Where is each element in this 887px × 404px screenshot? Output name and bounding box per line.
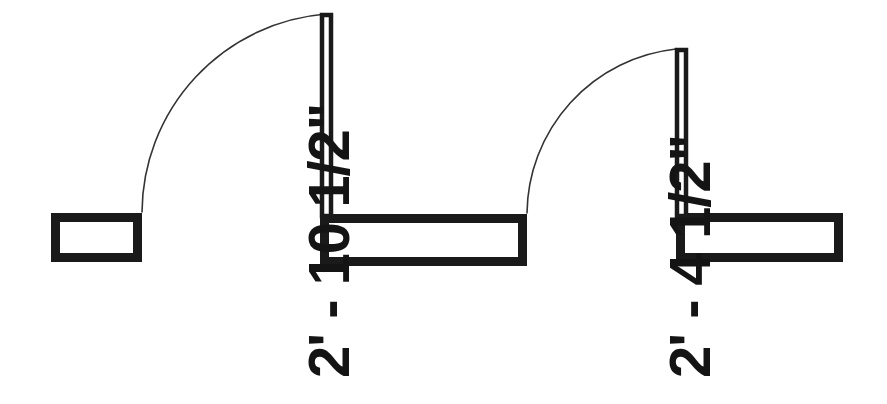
swing-arc-group: [142, 14, 676, 213]
dimension-label-opening-left: 2' - 10 1/2": [300, 104, 358, 378]
door-leaf-group: [322, 15, 686, 216]
floor-plan-drawing: [0, 0, 887, 404]
swing-arc-right-icon: [527, 49, 676, 213]
floor-plan-canvas: 2' - 10 1/2" 2' - 4 1/2": [0, 0, 887, 404]
dimension-label-opening-right: 2' - 4 1/2": [661, 135, 719, 378]
wall-left-stub: [56, 218, 138, 258]
